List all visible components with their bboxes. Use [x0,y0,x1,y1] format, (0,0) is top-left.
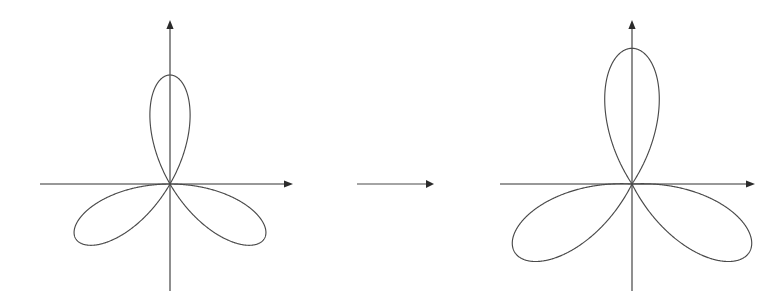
transformation-arrow-head-icon [426,180,434,188]
right-rose-panel [500,20,755,291]
polar-rose-figure-svg [0,0,775,303]
left-y-axis-arrowhead-icon [166,20,173,29]
right-y-axis [628,20,635,291]
figure-root [0,0,775,303]
right-y-axis-arrowhead-icon [628,20,635,29]
left-x-axis-arrowhead-icon [284,180,293,187]
transform-arrow-group [357,180,434,188]
right-x-axis-arrowhead-icon [746,180,755,187]
left-y-axis [166,20,173,291]
left-rose-panel [40,20,293,291]
